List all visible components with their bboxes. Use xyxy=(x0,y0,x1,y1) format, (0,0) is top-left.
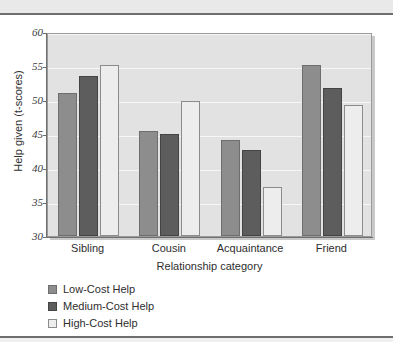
bar xyxy=(221,140,240,236)
legend-swatch xyxy=(48,302,57,311)
bar xyxy=(139,131,158,236)
legend-swatch xyxy=(48,285,57,294)
bottom-decorative-band xyxy=(0,338,393,342)
plot-area xyxy=(47,33,372,237)
bar xyxy=(58,93,77,236)
bar xyxy=(79,76,98,236)
y-axis-title: Help given (t-scores) xyxy=(12,31,24,211)
bar xyxy=(181,101,200,236)
gridline xyxy=(48,68,371,69)
bar-body xyxy=(221,140,240,236)
legend-label: Medium-Cost Help xyxy=(63,300,154,312)
bar-body xyxy=(181,101,200,236)
legend-label: Low-Cost Help xyxy=(63,283,135,295)
top-decorative-band xyxy=(0,0,393,13)
x-axis-line xyxy=(46,237,373,238)
gridline xyxy=(48,34,371,35)
x-tick-label: Friend xyxy=(271,242,391,254)
bar xyxy=(160,134,179,236)
bar-chart: 30354045505560 Help given (t-scores) Sib… xyxy=(0,15,393,336)
bar-body xyxy=(100,65,119,236)
bar-body xyxy=(139,131,158,236)
y-tick-mark xyxy=(43,135,46,136)
bar xyxy=(323,88,342,236)
y-axis-line xyxy=(46,33,47,238)
bar xyxy=(344,105,363,236)
bar-body xyxy=(263,187,282,236)
bar xyxy=(242,150,261,236)
bar-body xyxy=(323,88,342,236)
y-tick-label: 30 xyxy=(3,231,43,242)
x-axis-title: Relationship category xyxy=(47,260,372,272)
bar-body xyxy=(302,65,321,236)
y-tick-mark xyxy=(43,237,46,238)
bar-body xyxy=(242,150,261,236)
legend-swatch xyxy=(48,319,57,328)
bar-body xyxy=(79,76,98,236)
legend-item: Medium-Cost Help xyxy=(48,298,154,314)
bar xyxy=(302,65,321,236)
legend-item: High-Cost Help xyxy=(48,315,154,331)
y-tick-mark xyxy=(43,203,46,204)
legend-label: High-Cost Help xyxy=(63,317,138,329)
bar-body xyxy=(344,105,363,236)
y-tick-mark xyxy=(43,101,46,102)
y-tick-mark xyxy=(43,169,46,170)
legend-item: Low-Cost Help xyxy=(48,281,154,297)
bar xyxy=(263,187,282,236)
bar-body xyxy=(58,93,77,236)
bar xyxy=(100,65,119,236)
bar-body xyxy=(160,134,179,236)
y-tick-mark xyxy=(43,33,46,34)
y-tick-mark xyxy=(43,67,46,68)
legend: Low-Cost HelpMedium-Cost HelpHigh-Cost H… xyxy=(48,281,154,332)
figure-frame: 30354045505560 Help given (t-scores) Sib… xyxy=(0,0,393,342)
